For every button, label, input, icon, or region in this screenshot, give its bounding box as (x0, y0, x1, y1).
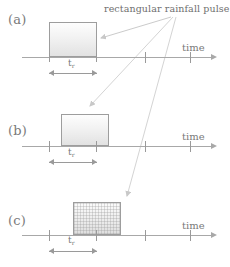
time-axis-label-b: time (182, 131, 205, 142)
duration-label-b: tr (68, 147, 75, 157)
axis-tick-a-2 (96, 53, 97, 62)
duration-dim-line-b (49, 162, 97, 163)
duration-label-c: tr (68, 235, 75, 245)
duration-dim-arrow-left-b (49, 159, 54, 165)
axis-tick-a-3 (145, 52, 146, 63)
panel-a-label: (a) (8, 12, 27, 27)
axis-tick-a-1 (49, 53, 50, 62)
axis-tick-b-1 (49, 141, 50, 152)
time-axis-b (22, 146, 212, 147)
pulse-box-c (73, 202, 121, 235)
time-axis-arrow-a (211, 54, 217, 60)
pulse-box-b (61, 114, 109, 146)
duration-label-a-subscript: r (72, 62, 75, 69)
axis-tick-c-3 (145, 230, 146, 241)
axis-tick-b-4 (190, 141, 191, 152)
duration-label-b-subscript: r (72, 151, 75, 158)
time-axis-label-a: time (182, 42, 205, 53)
duration-dim-arrow-right-b (92, 159, 97, 165)
duration-label-a: tr (68, 58, 75, 68)
duration-dim-line-a (49, 73, 97, 74)
time-axis-c (22, 235, 212, 236)
axis-tick-c-4 (190, 230, 191, 241)
duration-dim-arrow-left-a (49, 70, 54, 76)
duration-label-c-subscript: r (72, 239, 75, 246)
panel-b: (b) time tr (0, 89, 230, 179)
axis-tick-b-2 (96, 141, 97, 152)
duration-dim-arrow-right-a (92, 70, 97, 76)
axis-tick-b-3 (145, 141, 146, 152)
axis-tick-c-2 (96, 230, 97, 241)
duration-dim-line-c (49, 251, 97, 252)
rainfall-pulse-figure: rectangular rainfall pulse (a) time tr (… (0, 0, 230, 267)
panel-c: (c) time tr (0, 178, 230, 267)
panel-b-label: (b) (8, 123, 27, 138)
time-axis-label-c: time (182, 220, 205, 231)
axis-tick-a-4 (190, 52, 191, 63)
panel-c-label: (c) (8, 213, 26, 228)
time-axis-arrow-b (211, 143, 217, 149)
duration-dim-arrow-left-c (49, 248, 54, 254)
time-axis-arrow-c (211, 232, 217, 238)
duration-dim-arrow-right-c (92, 248, 97, 254)
axis-tick-c-1 (49, 230, 50, 241)
time-axis-a (22, 57, 212, 58)
panel-a: (a) time tr (0, 0, 230, 90)
pulse-box-a (49, 22, 97, 57)
